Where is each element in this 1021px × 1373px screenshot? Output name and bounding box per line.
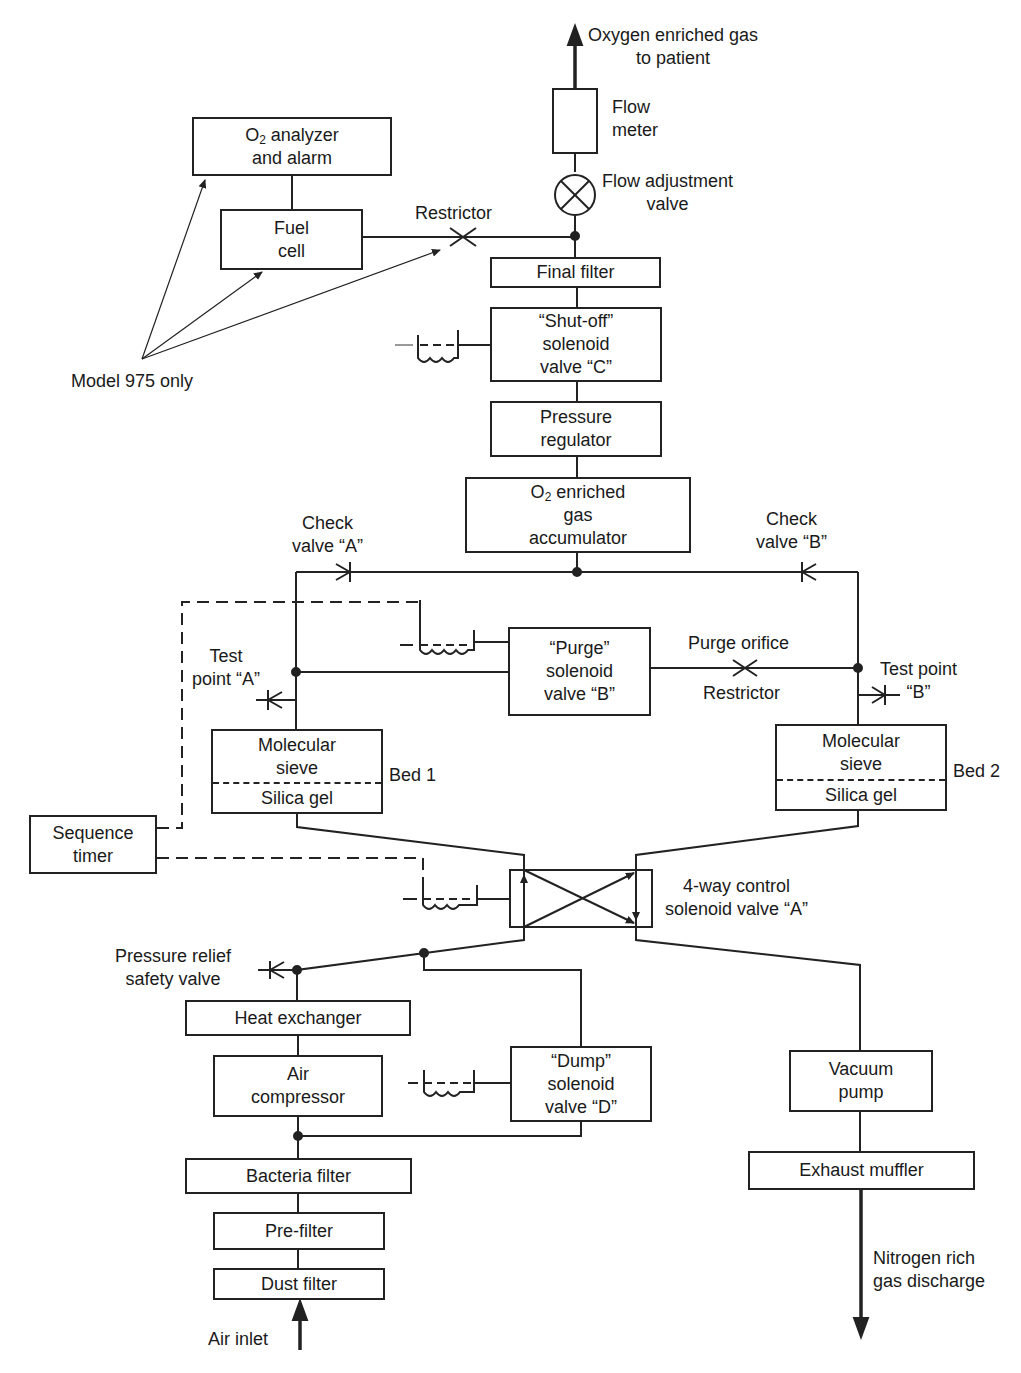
nitrogen-discharge-label: Nitrogen richgas discharge xyxy=(873,1247,985,1293)
o2-analyzer-alarm[interactable]: O2 analyzer and alarm xyxy=(192,117,392,176)
dust-filter[interactable]: Dust filter xyxy=(213,1268,385,1300)
output-label: Oxygen enriched gasto patient xyxy=(588,24,758,70)
heat-exchanger[interactable]: Heat exchanger xyxy=(185,1000,411,1036)
bed-2-label: Bed 2 xyxy=(953,760,1000,783)
fuel-cell[interactable]: Fuelcell xyxy=(220,209,363,270)
o2-gas-accumulator[interactable]: O2 enriched gas accumulator xyxy=(465,477,691,553)
exhaust-muffler[interactable]: Exhaust muffler xyxy=(748,1151,975,1190)
solenoid-coil-a xyxy=(403,880,510,909)
check-valve-a-label: Checkvalve “A” xyxy=(292,512,363,558)
model-975-note: Model 975 only xyxy=(71,370,193,393)
check-valve-b-icon xyxy=(802,564,816,572)
flow-meter-label: Flowmeter xyxy=(612,96,658,142)
final-filter[interactable]: Final filter xyxy=(490,257,661,288)
bacteria-filter[interactable]: Bacteria filter xyxy=(185,1158,412,1194)
purge-restrictor-label: Restrictor xyxy=(703,682,780,705)
test-point-b-label: Test point“B” xyxy=(880,658,957,704)
four-way-valve-label: 4-way controlsolenoid valve “A” xyxy=(665,875,808,921)
pre-filter[interactable]: Pre-filter xyxy=(213,1212,385,1250)
vacuum-pump[interactable]: Vacuumpump xyxy=(789,1050,933,1112)
flow-adjustment-valve-label: Flow adjustmentvalve xyxy=(602,170,733,216)
dump-solenoid-valve-d[interactable]: “Dump”solenoidvalve “D” xyxy=(510,1046,652,1122)
bed-1[interactable]: Molecularsieve Silica gel xyxy=(211,729,383,814)
solenoid-coil-b xyxy=(400,600,508,654)
purge-orifice-label: Purge orifice xyxy=(688,632,789,655)
purge-solenoid-valve-b[interactable]: “Purge”solenoidvalve “B” xyxy=(508,627,651,716)
bed-2[interactable]: Molecularsieve Silica gel xyxy=(775,724,947,811)
solenoid-coil-d xyxy=(408,1070,510,1096)
test-point-a-label: Testpoint “A” xyxy=(192,645,260,691)
check-valve-a-icon xyxy=(336,564,350,572)
check-valve-b-label: Checkvalve “B” xyxy=(756,508,827,554)
bed-1-label: Bed 1 xyxy=(389,764,436,787)
air-inlet-label: Air inlet xyxy=(208,1328,268,1351)
shutoff-solenoid-valve-c[interactable]: “Shut-off”solenoidvalve “C” xyxy=(490,307,662,382)
solenoid-coil-c xyxy=(395,330,492,362)
pressure-regulator[interactable]: Pressureregulator xyxy=(490,401,662,457)
flow-meter[interactable] xyxy=(552,88,598,154)
sequence-timer[interactable]: Sequencetimer xyxy=(29,815,157,874)
restrictor-label: Restrictor xyxy=(415,202,492,225)
air-compressor[interactable]: Aircompressor xyxy=(213,1055,383,1117)
pressure-relief-label: Pressure reliefsafety valve xyxy=(115,945,231,991)
